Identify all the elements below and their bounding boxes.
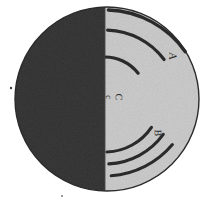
sphere-diagram: ACcB <box>0 0 209 201</box>
speck-left-margin <box>10 87 12 89</box>
arc-label-b: B <box>153 130 164 137</box>
figure-container: ACcB A B C c <box>0 0 209 201</box>
arc-label-c: C <box>114 94 125 101</box>
speck-lower-margin <box>61 195 63 197</box>
arc-label-a: A <box>167 52 179 60</box>
arc-label-c2: c <box>104 95 114 99</box>
